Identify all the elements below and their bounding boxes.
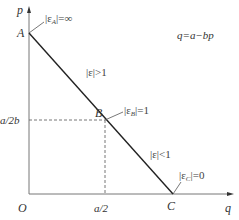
- x-tick-a-over-2: a/2: [94, 202, 109, 214]
- elasticity-a: |εA|=∞: [45, 12, 73, 26]
- y-axis-arrow-icon: [27, 6, 31, 13]
- elasticity-b: |εB|=1: [124, 104, 149, 118]
- demand-equation: q=a−bp: [177, 29, 214, 41]
- region-elastic-label: |ε|>1: [86, 66, 107, 78]
- point-c-label: C: [167, 199, 176, 213]
- region-inelastic-label: |ε|<1: [150, 148, 171, 160]
- point-a-label: A: [16, 26, 25, 40]
- y-tick-a-over-2b: a/2b: [0, 114, 20, 126]
- leader-c: [173, 182, 181, 194]
- x-axis-label: q: [225, 201, 231, 215]
- x-axis-arrow-icon: [227, 192, 234, 196]
- demand-elasticity-diagram: p q O A B C |εA|=∞ |εB|=1 |εC|=0 |ε|>1 |…: [0, 0, 239, 220]
- elasticity-c: |εC|=0: [179, 169, 205, 183]
- origin-label: O: [18, 201, 27, 215]
- y-axis-label: p: [16, 3, 23, 17]
- leader-b: [105, 112, 123, 120]
- leader-a: [29, 22, 44, 33]
- point-b-label: B: [95, 106, 103, 120]
